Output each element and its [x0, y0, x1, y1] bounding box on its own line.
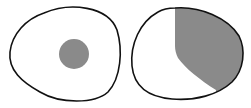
- diagram-canvas: [0, 0, 251, 108]
- left-cell: [10, 7, 120, 101]
- right-cell-shaded-region: [175, 0, 251, 108]
- left-cell-nucleus: [59, 39, 89, 69]
- right-cell: [132, 0, 251, 108]
